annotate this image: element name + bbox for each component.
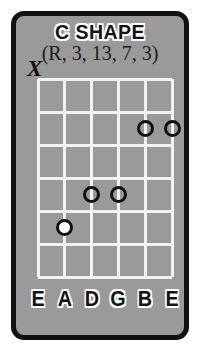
string-label-2-D: D — [83, 288, 101, 310]
chord-diagram-card: C SHAPE (R, 3, 13, 7, 3) X EADGBE — [11, 11, 189, 340]
note-marker-B-fret-2 — [137, 120, 154, 137]
string-label-1-A: A — [56, 288, 74, 310]
note-marker-D-fret-4 — [83, 186, 100, 203]
note-marker-E-fret-2 — [164, 120, 181, 137]
fretboard-grid: X — [38, 79, 172, 277]
string-label-0-E: E — [29, 288, 47, 310]
string-labels: EADGBE — [16, 288, 184, 322]
fret-line-5 — [38, 243, 172, 246]
fret-line-2 — [38, 144, 172, 147]
string-label-4-B: B — [136, 288, 154, 310]
page-title: C SHAPE — [22, 21, 178, 42]
fret-line-1 — [38, 111, 172, 114]
note-marker-G-fret-4 — [110, 186, 127, 203]
mute-x-icon: X — [27, 57, 42, 80]
string-label-3-G: G — [109, 288, 127, 310]
fret-line-0 — [38, 78, 172, 81]
string-label-5-E: E — [163, 288, 181, 310]
fret-line-4 — [38, 210, 172, 213]
fret-line-6 — [38, 276, 172, 279]
fret-line-3 — [38, 177, 172, 180]
note-marker-A-fret-5 — [56, 219, 73, 236]
